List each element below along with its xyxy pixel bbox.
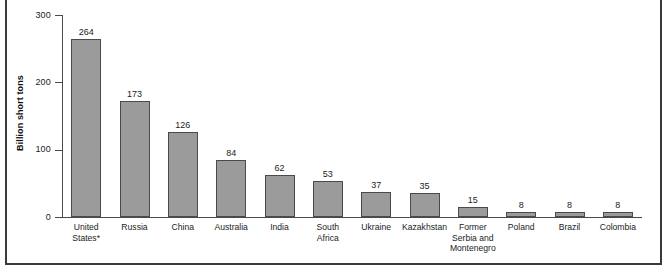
y-axis-tick-label: 100 (20, 145, 51, 154)
bar-chart-plot: Billion short tons 0100200300264UnitedSt… (0, 0, 672, 272)
y-axis-tick-label: 200 (20, 78, 51, 87)
x-axis-category-label-line: Africa (300, 233, 356, 244)
bar (555, 212, 585, 217)
x-axis-category-label-line: Colombia (590, 222, 646, 233)
y-axis-tick-label-text: 200 (35, 78, 51, 87)
bar-value-label: 8 (546, 200, 594, 210)
bar-value-label: 84 (207, 148, 255, 158)
bar (265, 175, 295, 217)
bar (120, 101, 150, 217)
bar-value-label: 173 (111, 89, 159, 99)
y-axis-tick (55, 15, 62, 16)
bar-value-label: 37 (352, 180, 400, 190)
x-axis-category-label-line: Montenegro (445, 243, 501, 254)
bar-value-label: 62 (256, 163, 304, 173)
bar (71, 39, 101, 217)
bar (458, 207, 488, 217)
bar-value-label: 126 (159, 120, 207, 130)
bar-value-label: 15 (449, 195, 497, 205)
y-axis-tick (55, 82, 62, 83)
bar (361, 192, 391, 217)
x-axis-category-label-line: States* (58, 233, 114, 244)
y-axis-tick-label: 0 (20, 213, 51, 222)
bar (168, 132, 198, 217)
bar-value-label: 8 (497, 200, 545, 210)
x-axis-line (62, 217, 642, 218)
x-axis-category-label-line: Serbia and (445, 233, 501, 244)
bar (313, 181, 343, 217)
y-axis-tick-label-text: 0 (46, 213, 51, 222)
bar (506, 212, 536, 217)
y-axis-tick-label-text: 100 (35, 145, 51, 154)
y-axis-tick-label: 300 (20, 11, 51, 20)
bar (410, 193, 440, 217)
chart-figure: Billion short tons 0100200300264UnitedSt… (0, 0, 672, 272)
bar (603, 212, 633, 217)
y-axis-tick (55, 150, 62, 151)
bar-value-label: 264 (62, 27, 110, 37)
bar-value-label: 8 (594, 200, 642, 210)
y-axis-line (62, 15, 63, 218)
y-axis-tick-label-text: 300 (35, 11, 51, 20)
bar (216, 160, 246, 217)
y-axis-tick (55, 217, 62, 218)
x-axis-category-label: Colombia (590, 222, 646, 233)
bar-value-label: 35 (401, 181, 449, 191)
bar-value-label: 53 (304, 169, 352, 179)
